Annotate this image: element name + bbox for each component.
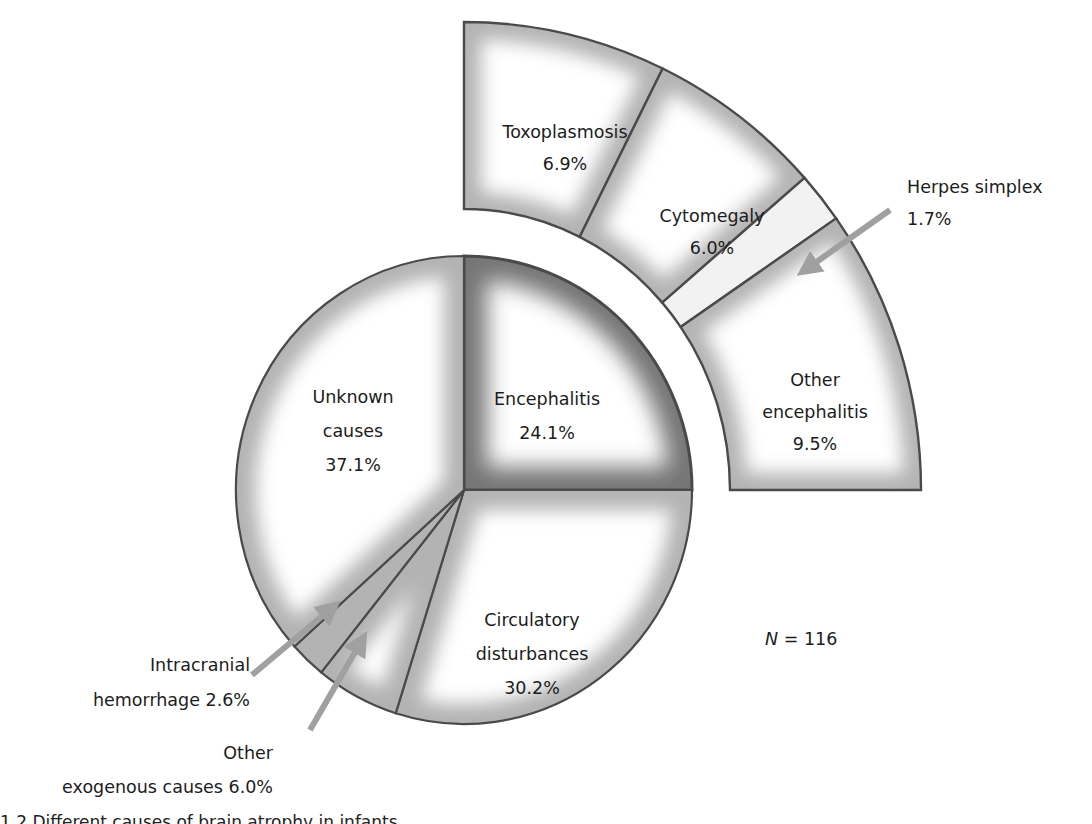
n-value: = 116 (778, 629, 837, 649)
n-symbol: N (765, 629, 778, 649)
label-intracranial-hemorrhage: Intracranialhemorrhage 2.6% (93, 655, 250, 710)
label-herpes-simplex: Herpes simplex1.7% (907, 177, 1043, 229)
sample-size-label: N = 116 (765, 629, 837, 649)
figure-caption: 1.2 Different causes of brain atrophy in… (0, 812, 398, 824)
label-other-exogenous-causes: Otherexogenous causes 6.0% (62, 743, 274, 797)
main-pie (236, 256, 692, 724)
